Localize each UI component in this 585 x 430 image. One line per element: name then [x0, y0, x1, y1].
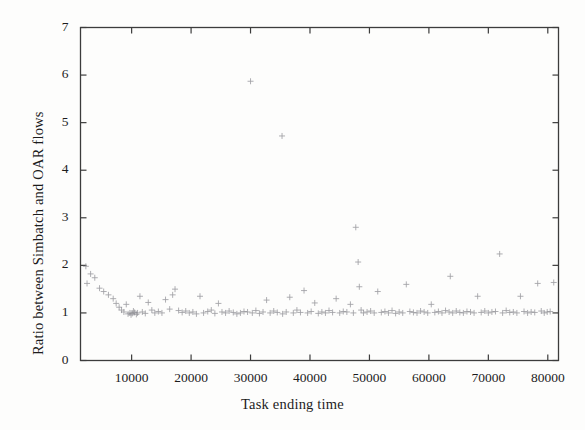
data-point-markers: [83, 78, 557, 318]
x-tick-label: 80000: [508, 370, 585, 386]
y-tick-label: 7: [29, 19, 69, 35]
y-tick-label: 6: [29, 66, 69, 82]
figure-container: 1000020000300004000050000600007000080000…: [0, 0, 585, 430]
x-axis-title: Task ending time: [0, 396, 585, 413]
scatter-plot: [0, 0, 585, 430]
y-axis-title: Ratio between Simbatch and OAR flows: [30, 111, 47, 355]
